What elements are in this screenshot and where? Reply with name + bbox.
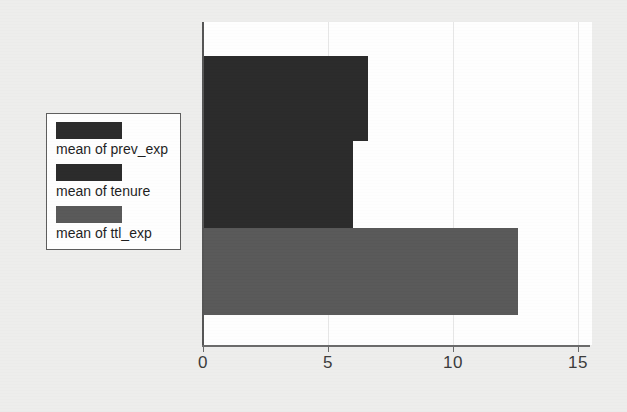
x-axis-label-0: 0 [198,353,208,373]
x-axis-label-15: 15 [568,353,588,373]
legend-label-ttl-exp: mean of ttl_exp [56,225,172,241]
chart-legend: mean of prev_exp mean of tenure mean of … [46,113,181,250]
bar-prev-exp [203,56,368,141]
bar-ttl-exp [203,228,518,315]
legend-label-tenure: mean of tenure [56,183,172,199]
x-axis-line [202,345,590,347]
legend-label-prev-exp: mean of prev_exp [56,141,172,157]
gridline-15 [578,22,579,345]
plot-area [203,22,592,345]
legend-swatch-prev-exp [56,122,122,139]
legend-entry-tenure: mean of tenure [56,164,172,199]
legend-entry-prev-exp: mean of prev_exp [56,122,172,157]
x-axis-label-10: 10 [443,353,463,373]
y-axis-line [202,22,204,345]
x-axis-tick-10 [453,345,454,352]
bar-chart-figure: 0 5 10 15 mean of prev_exp mean of tenur… [0,0,627,412]
legend-swatch-tenure [56,164,122,181]
x-axis-tick-5 [328,345,329,352]
x-axis-tick-0 [203,345,204,352]
legend-swatch-ttl-exp [56,206,122,223]
x-axis-label-5: 5 [323,353,333,373]
bar-tenure [203,141,353,228]
legend-entry-ttl-exp: mean of ttl_exp [56,206,172,241]
x-axis-tick-15 [578,345,579,352]
